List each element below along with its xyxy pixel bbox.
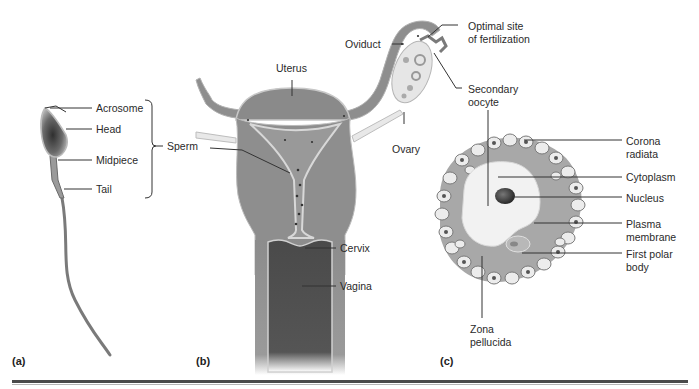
label-secondary-oocyte-line1: Secondary [468,83,518,95]
label-first-polar-body-line1: First polar [626,248,673,260]
bottom-rule-shadow [12,384,688,385]
label-midpiece: Midpiece [96,154,138,166]
fertilization-figure: Acrosome Head Midpiece Tail Sperm Uterus… [0,0,699,389]
label-tail: Tail [96,183,112,195]
label-uterus: Uterus [276,62,307,74]
label-cytoplasm: Cytoplasm [626,171,676,183]
oocyte-illustration [435,134,585,284]
label-vagina: Vagina [340,280,372,292]
label-head: Head [96,123,121,135]
label-plasma-membrane-line2: membrane [626,231,676,243]
label-first-polar-body-line2: body [626,261,649,273]
label-optimal-site-line2: of fertilization [468,33,530,45]
reproductive-tract-illustration [196,21,446,375]
label-corona-radiata-line2: radiata [626,148,658,160]
sperm-illustration [41,106,110,355]
panel-label-b: (b) [196,355,210,367]
label-zona-pellucida-line2: pellucida [470,336,511,348]
label-sperm: Sperm [167,140,198,152]
label-cervix: Cervix [340,242,370,254]
label-secondary-oocyte-line2: oocyte [468,96,499,108]
label-zona-pellucida-line1: Zona [470,323,494,335]
label-oviduct: Oviduct [345,38,381,50]
label-optimal-site-line1: Optimal site [468,20,523,32]
label-plasma-membrane-line1: Plasma [626,218,661,230]
label-nucleus: Nucleus [626,192,664,204]
bottom-rule [12,380,688,383]
panel-label-a: (a) [12,355,25,367]
label-acrosome: Acrosome [96,102,143,114]
label-corona-radiata-line1: Corona [626,135,660,147]
label-ovary: Ovary [392,143,420,155]
panel-label-c: (c) [440,355,453,367]
